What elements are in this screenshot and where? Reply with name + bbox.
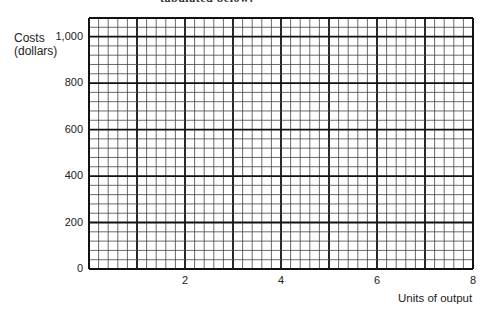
y-tick-label: 400	[43, 169, 83, 181]
y-tick-label: 600	[43, 123, 83, 135]
x-tick-label: 6	[367, 274, 387, 286]
x-tick-label: 2	[175, 274, 195, 286]
y-tick-label: 1,000	[43, 30, 83, 42]
y-tick-label: 800	[43, 76, 83, 88]
x-tick-label: 4	[271, 274, 291, 286]
y-tick-label: 200	[43, 216, 83, 228]
y-tick-label: 0	[43, 262, 83, 274]
x-axis-label: Units of output	[398, 292, 472, 304]
x-tick-label: 8	[463, 274, 483, 286]
